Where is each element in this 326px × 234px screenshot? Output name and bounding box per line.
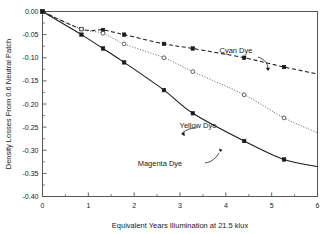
x-tick-label: 1 <box>86 202 90 209</box>
data-point-marker <box>191 70 195 74</box>
y-tick-label: -0.15 <box>23 77 39 84</box>
data-point-marker <box>122 61 126 65</box>
data-point-marker <box>80 27 84 31</box>
y-tick-label: -0.30 <box>23 147 39 154</box>
series-yellow-dye <box>41 10 318 133</box>
y-tick-label: -0.20 <box>23 101 39 108</box>
series-magenta-dye <box>41 10 318 167</box>
series-layer <box>41 10 318 167</box>
chart-figure: 0.00-0.05-0.10-0.15-0.20-0.25-0.30-0.35-… <box>0 0 326 234</box>
data-point-marker <box>162 88 166 92</box>
annotation-arrowhead <box>219 148 223 152</box>
data-point-marker <box>122 42 126 46</box>
series-cyan-dye <box>41 10 318 74</box>
y-tick-label: -0.35 <box>23 170 39 177</box>
y-tick-label: 0.00 <box>25 8 39 15</box>
data-point-marker <box>80 33 84 37</box>
data-point-marker <box>101 31 105 35</box>
x-tick-label: 2 <box>132 202 136 209</box>
x-tick-label: 6 <box>316 202 320 209</box>
data-point-marker <box>242 139 246 143</box>
annotation-arrowhead <box>266 68 270 71</box>
data-point-marker <box>162 56 166 60</box>
series-line <box>43 12 318 133</box>
y-tick-label: -0.10 <box>23 54 39 61</box>
data-point-marker <box>191 47 195 51</box>
annotation-label-yellow-dye: Yellow Dye <box>180 121 217 130</box>
data-point-marker <box>242 56 246 60</box>
x-tick-label: 4 <box>224 202 228 209</box>
annotation-layer: Cyan DyeYellow DyeMagenta Dye <box>138 46 271 168</box>
data-point-marker <box>242 93 246 97</box>
line-chart: 0.00-0.05-0.10-0.15-0.20-0.25-0.30-0.35-… <box>0 0 326 234</box>
data-point-marker <box>41 10 45 14</box>
data-point-marker <box>101 47 105 51</box>
data-point-marker <box>282 116 286 120</box>
x-axis-title: Equivalent Years Illumination at 21.5 kl… <box>112 221 249 230</box>
x-tick-label: 0 <box>41 202 45 209</box>
y-tick-label: -0.40 <box>23 193 39 200</box>
annotation-label-magenta-dye: Magenta Dye <box>138 159 183 168</box>
data-point-marker <box>282 158 286 162</box>
data-point-marker <box>282 65 286 69</box>
x-axis-ticks: 0123456 <box>41 193 320 209</box>
y-tick-label: -0.05 <box>23 31 39 38</box>
y-axis-title: Density Losses From 0.6 Neutral Patch <box>4 39 13 169</box>
x-tick-label: 5 <box>270 202 274 209</box>
x-tick-label: 3 <box>178 202 182 209</box>
annotation-label-cyan-dye: Cyan Dye <box>220 46 253 55</box>
series-line <box>43 12 318 74</box>
data-point-marker <box>122 33 126 37</box>
data-point-marker <box>191 111 195 115</box>
data-point-marker <box>162 42 166 46</box>
annotation-leader <box>205 153 219 163</box>
series-line <box>43 12 318 167</box>
y-tick-label: -0.25 <box>23 124 39 131</box>
